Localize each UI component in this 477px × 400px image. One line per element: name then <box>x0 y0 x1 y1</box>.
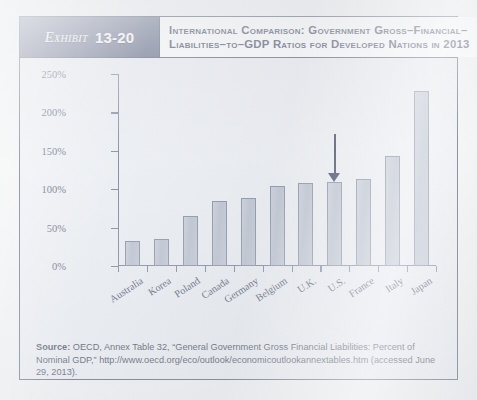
x-axis-tick <box>349 266 350 272</box>
bar-canada <box>212 201 227 266</box>
exhibit-title-line-2: Liabilities–to–GDP Ratios for Developed … <box>169 37 470 52</box>
x-axis-label-australia: Australia <box>107 275 144 305</box>
y-axis-tick-label: 50% <box>47 222 66 233</box>
x-axis-tick <box>436 266 437 272</box>
y-axis-tick <box>111 151 118 152</box>
x-axis-tick <box>205 266 206 272</box>
down-arrow-icon <box>328 134 342 174</box>
exhibit-header: Exhibit 13-20 International Comparison: … <box>20 17 457 58</box>
y-axis-tick <box>111 189 118 190</box>
bar-series <box>118 74 436 266</box>
x-axis-label-us: U.S. <box>326 275 347 294</box>
source-note: Source: OECD, Annex Table 32, “General G… <box>20 331 457 379</box>
x-axis-label-italy: Italy <box>383 275 405 294</box>
y-axis-tick <box>111 228 118 229</box>
x-axis-tick <box>176 266 177 272</box>
exhibit-badge: Exhibit 13-20 <box>20 17 160 57</box>
exhibit-title-line-1: International Comparison: Government Gro… <box>169 23 470 38</box>
x-axis-label-korea: Korea <box>147 275 174 298</box>
bar-japan <box>414 91 429 266</box>
x-axis-label-poland: Poland <box>173 275 203 300</box>
chart-plot-area: 0%50%100%150%200%250% AustraliaKoreaPola… <box>20 58 457 310</box>
bar-uk <box>298 183 313 266</box>
x-axis-tick <box>378 266 379 272</box>
bar-france <box>356 179 371 266</box>
bar-belgium <box>270 186 285 266</box>
exhibit-badge-word: Exhibit <box>45 29 88 46</box>
bar-germany <box>241 198 256 266</box>
x-axis-label-france: France <box>346 275 375 299</box>
exhibit-body: 0%50%100%150%200%250% AustraliaKoreaPola… <box>20 58 457 379</box>
exhibit-title: International Comparison: Government Gro… <box>160 17 477 57</box>
y-axis-tick-label: 100% <box>42 184 67 195</box>
x-axis-tick <box>292 266 293 272</box>
bar-us <box>327 182 342 266</box>
bar-australia <box>125 241 140 266</box>
x-axis-label-uk: U.K. <box>295 275 318 295</box>
bar-italy <box>385 156 400 266</box>
y-axis-tick <box>111 266 118 267</box>
source-label: Source: <box>36 342 70 352</box>
y-axis-tick <box>111 112 118 113</box>
x-axis-tick <box>234 266 235 272</box>
y-axis-tick-label: 0% <box>52 261 66 272</box>
y-axis-tick-label: 250% <box>42 69 67 80</box>
bar-poland <box>183 216 198 266</box>
x-axis-tick <box>320 266 321 272</box>
y-axis-tick <box>111 74 118 75</box>
exhibit-frame: Exhibit 13-20 International Comparison: … <box>19 16 458 380</box>
x-axis-tick <box>147 266 148 272</box>
source-text: OECD, Annex Table 32, “General Governmen… <box>36 342 435 377</box>
y-axis-tick-label: 150% <box>42 145 67 156</box>
arrow-head <box>328 173 340 182</box>
x-axis-tick <box>118 266 119 272</box>
x-axis-label-japan: Japan <box>408 275 433 297</box>
y-axis-tick-label: 200% <box>42 107 67 118</box>
bar-korea <box>154 239 169 266</box>
x-axis-tick <box>407 266 408 272</box>
x-axis-tick <box>263 266 264 272</box>
exhibit-badge-number: 13-20 <box>95 29 134 46</box>
x-axis-label-belgium: Belgium <box>254 275 289 303</box>
arrow-shaft <box>334 134 336 174</box>
